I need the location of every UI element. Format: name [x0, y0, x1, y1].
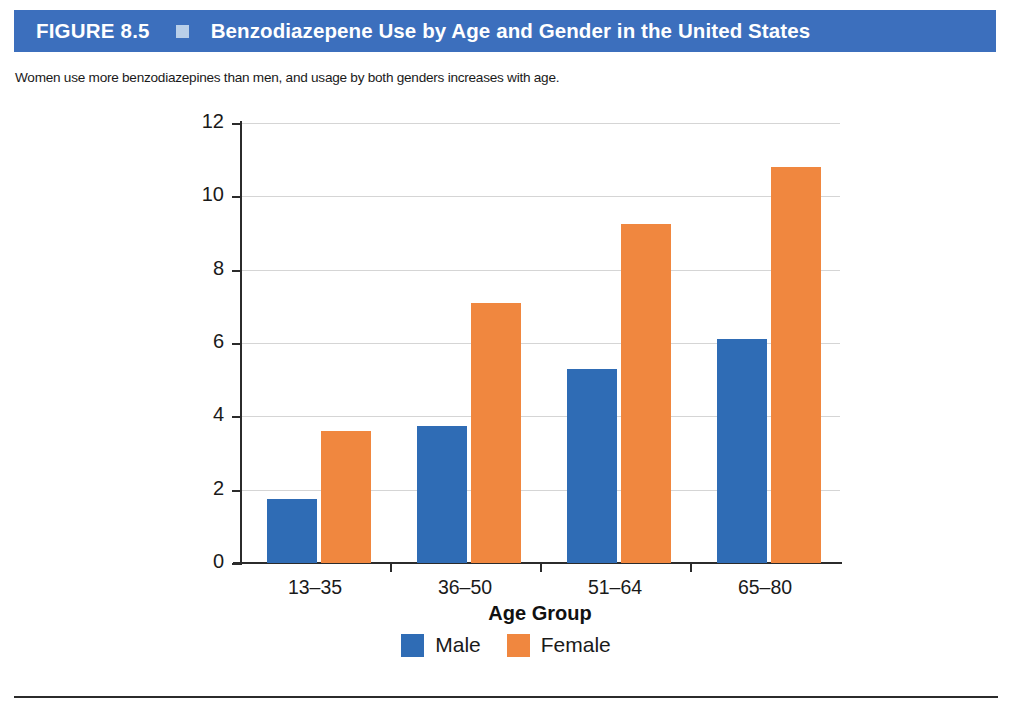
x-axis-tick — [690, 562, 692, 572]
y-axis-tick-label: 2 — [184, 477, 224, 500]
figure-header-bar: FIGURE 8.5 Benzodiazepene Use by Age and… — [14, 10, 996, 52]
chart-legend: MaleFemale — [0, 633, 1012, 657]
x-axis-tick-label: 36–50 — [385, 576, 545, 599]
bottom-divider — [14, 696, 998, 698]
bar-male-36-50 — [417, 426, 467, 564]
x-axis-tick — [390, 562, 392, 572]
x-axis-tick — [540, 562, 542, 572]
bar-chart: Benzodiazepine Use (%) 024681012 13–3536… — [0, 104, 1012, 664]
legend-label: Male — [435, 633, 481, 657]
male-color-swatch-icon — [401, 634, 424, 657]
x-axis-tick-label: 13–35 — [235, 576, 395, 599]
y-axis-tick-label: 8 — [184, 257, 224, 280]
bar-female-51-64 — [621, 224, 671, 563]
x-axis-tick-label: 51–64 — [535, 576, 695, 599]
y-axis-tick-label: 12 — [184, 110, 224, 133]
bar-female-65-80 — [771, 167, 821, 563]
figure-caption: Women use more benzodiazepines than men,… — [15, 70, 559, 85]
figure-number: FIGURE 8.5 — [36, 19, 150, 43]
x-axis-tick-label: 65–80 — [685, 576, 845, 599]
plot-area — [240, 123, 840, 563]
legend-label: Female — [541, 633, 611, 657]
y-axis-tick-label: 10 — [184, 183, 224, 206]
figure-title: Benzodiazepene Use by Age and Gender in … — [211, 19, 811, 43]
bar-male-51-64 — [567, 369, 617, 563]
square-marker-icon — [176, 25, 189, 38]
bar-female-36-50 — [471, 303, 521, 563]
bar-male-65-80 — [717, 339, 767, 563]
y-axis-tick-label: 6 — [184, 330, 224, 353]
bar-female-13-35 — [321, 431, 371, 563]
bar-male-13-35 — [267, 499, 317, 563]
x-axis-title: Age Group — [240, 602, 840, 625]
female-color-swatch-icon — [507, 634, 530, 657]
y-axis-tick-label: 4 — [184, 403, 224, 426]
legend-item-female[interactable]: Female — [507, 633, 611, 657]
y-axis-tick-label: 0 — [184, 550, 224, 573]
legend-item-male[interactable]: Male — [401, 633, 481, 657]
